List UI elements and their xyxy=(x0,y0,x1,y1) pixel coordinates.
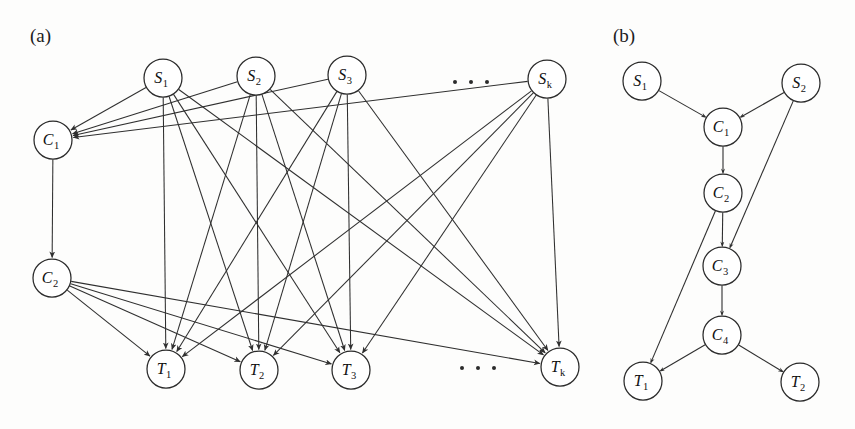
edge-a-S1-to-a-Tk xyxy=(179,89,544,354)
node-b-C3[interactable]: C3 xyxy=(703,247,741,285)
node-b-C2[interactable]: C2 xyxy=(704,174,742,212)
ellipsis-a-ellipsis-bottom xyxy=(460,366,496,370)
edges-layer xyxy=(52,79,793,371)
panel-caption-panel-b: (b) xyxy=(613,25,635,47)
edge-a-C2-to-a-T1 xyxy=(67,290,150,356)
node-a-C1[interactable]: C1 xyxy=(34,121,72,159)
ellipsis-a-ellipsis-top xyxy=(453,80,489,84)
edge-a-S2-to-a-Tk xyxy=(270,89,545,352)
panel-caption-panel-a: (a) xyxy=(30,25,51,47)
edge-a-Sk-to-a-T3 xyxy=(362,95,536,353)
edge-a-Sk-to-a-Tk xyxy=(548,98,559,346)
ellipsis-dot xyxy=(453,80,457,84)
node-a-Tk[interactable]: Tk xyxy=(541,348,579,386)
edge-a-S3-to-a-T2 xyxy=(265,94,342,351)
node-b-S2[interactable]: S2 xyxy=(782,64,820,102)
edge-b-S1-to-b-C1 xyxy=(659,91,705,117)
node-b-T1[interactable]: T1 xyxy=(624,362,662,400)
node-b-T2[interactable]: T2 xyxy=(781,363,819,401)
edge-b-S2-to-b-C1 xyxy=(741,93,784,117)
edge-a-S1-to-a-C1 xyxy=(71,88,146,130)
ellipsis-dot xyxy=(485,80,489,84)
edge-a-C1-to-a-C2 xyxy=(52,160,53,258)
node-a-S2[interactable]: S2 xyxy=(237,57,275,95)
nodes-layer: S1S2S3SkC1C2T1T2T3TkS1S2C1C2C3C4T1T2 xyxy=(33,56,820,401)
node-a-C2[interactable]: C2 xyxy=(33,259,71,297)
ellipsis-dot xyxy=(469,80,473,84)
node-a-T1[interactable]: T1 xyxy=(147,350,185,388)
edge-b-C4-to-b-T2 xyxy=(739,345,783,371)
edge-a-S3-to-a-T3 xyxy=(347,95,350,350)
edge-a-C2-to-a-T2 xyxy=(70,286,240,362)
node-a-S1[interactable]: S1 xyxy=(144,59,182,97)
edge-a-S3-to-a-Tk xyxy=(358,91,547,351)
figure-root: S1S2S3SkC1C2T1T2T3TkS1S2C1C2C3C4T1T2 (a)… xyxy=(0,0,855,429)
node-a-S3[interactable]: S3 xyxy=(328,56,366,94)
ellipsis-dot xyxy=(460,366,464,370)
ellipsis-dot xyxy=(476,366,480,370)
ellipsis-dot xyxy=(492,366,496,370)
edge-b-C4-to-b-T1 xyxy=(661,345,705,371)
node-b-S1[interactable]: S1 xyxy=(623,62,661,100)
node-a-Sk[interactable]: Sk xyxy=(528,60,566,98)
edge-a-S1-to-a-T1 xyxy=(163,98,166,349)
graph-diagram-svg: S1S2S3SkC1C2T1T2T3TkS1S2C1C2C3C4T1T2 (a)… xyxy=(0,0,855,429)
edge-a-Sk-to-a-T2 xyxy=(273,93,533,356)
node-a-T3[interactable]: T3 xyxy=(332,351,370,389)
node-b-C4[interactable]: C4 xyxy=(703,316,741,354)
node-b-C1[interactable]: C1 xyxy=(704,108,742,146)
node-a-T2[interactable]: T2 xyxy=(240,351,278,389)
